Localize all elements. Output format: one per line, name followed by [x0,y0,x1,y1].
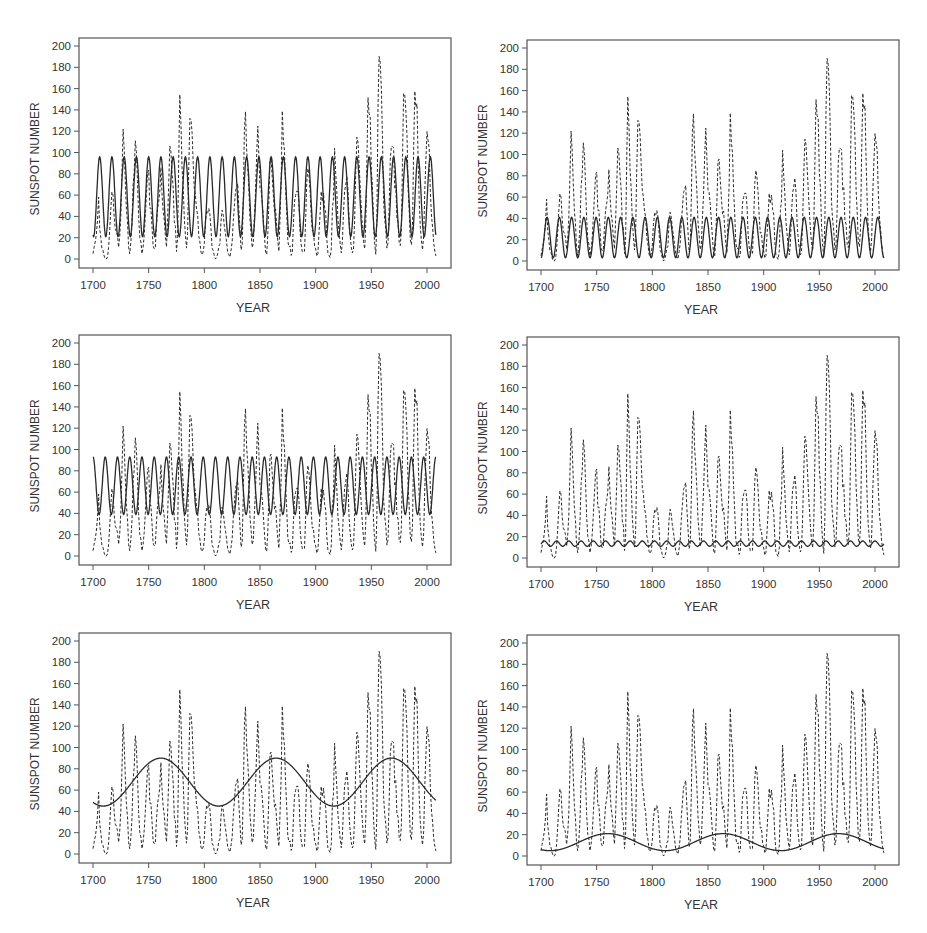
x-axis: 1700175018001850190019502000 [528,270,888,293]
x-axis-label: YEAR [684,898,718,912]
y-axis-label: SUNSPOT NUMBER [476,401,490,514]
x-tick-label: 1700 [528,281,554,293]
x-tick-label: 2000 [862,876,888,888]
x-axis-label: YEAR [684,303,718,317]
y-tick-label: 180 [500,63,519,75]
x-tick-label: 1950 [807,281,833,293]
y-tick-label: 40 [506,807,519,819]
y-tick-label: 140 [52,104,71,116]
y-tick-label: 180 [52,61,71,73]
plot-frame [527,337,899,567]
x-tick-label: 1700 [528,876,554,888]
y-tick-label: 140 [52,699,71,711]
x-axis-label: YEAR [236,896,270,910]
x-tick-label: 1900 [303,874,329,886]
y-tick-label: 40 [58,805,71,817]
y-tick-label: 180 [52,358,71,370]
y-tick-label: 100 [500,149,519,161]
y-tick-label: 80 [58,465,71,477]
y-tick-label: 120 [52,720,71,732]
y-tick-label: 20 [506,234,519,246]
plot-frame [79,633,451,863]
x-tick-label: 1750 [584,281,610,293]
y-axis: 020406080100120140160180200 [500,637,527,862]
observed-series-line [541,58,884,261]
y-tick-label: 180 [500,360,519,372]
figure-canvas: 0204060801001201401601802001700175018001… [0,0,927,933]
x-tick-label: 1850 [247,576,273,588]
y-tick-label: 100 [500,744,519,756]
x-tick-label: 1900 [303,576,329,588]
fitted-sinusoid-line [93,457,436,515]
observed-series-line [541,355,884,558]
y-tick-label: 0 [65,848,71,860]
y-axis-label: SUNSPOT NUMBER [28,102,42,215]
x-tick-label: 1850 [695,876,721,888]
x-tick-label: 1850 [695,578,721,590]
sunspot-figure: 0204060801001201401601802001700175018001… [0,0,927,933]
y-tick-label: 40 [58,210,71,222]
panel-1: 0204060801001201401601802001700175018001… [28,38,451,315]
y-axis-label: SUNSPOT NUMBER [476,104,490,217]
y-tick-label: 40 [506,212,519,224]
y-axis: 020406080100120140160180200 [52,337,79,562]
y-tick-label: 80 [506,170,519,182]
y-tick-label: 160 [52,380,71,392]
x-tick-label: 2000 [862,281,888,293]
panel-2: 0204060801001201401601802001700175018001… [476,40,899,317]
observed-series-line [541,653,884,856]
x-tick-label: 1950 [807,578,833,590]
y-tick-label: 120 [52,422,71,434]
plot-frame [527,40,899,270]
x-tick-label: 1800 [192,279,218,291]
y-tick-label: 0 [65,253,71,265]
y-tick-label: 100 [52,147,71,159]
y-axis: 020406080100120140160180200 [52,635,79,860]
y-axis-label: SUNSPOT NUMBER [28,697,42,810]
x-axis-label: YEAR [236,301,270,315]
panel-4: 0204060801001201401601802001700175018001… [476,337,899,614]
observed-series-line [93,353,436,556]
y-tick-label: 100 [500,446,519,458]
y-tick-label: 0 [513,850,519,862]
fitted-sinusoid-line [93,157,436,237]
y-tick-label: 60 [58,189,71,201]
y-axis: 020406080100120140160180200 [500,42,527,267]
y-tick-label: 120 [500,127,519,139]
x-tick-label: 1700 [80,279,106,291]
y-tick-label: 160 [52,678,71,690]
x-axis-label: YEAR [236,598,270,612]
y-tick-label: 80 [506,467,519,479]
x-tick-label: 1850 [695,281,721,293]
y-tick-label: 160 [52,83,71,95]
panel-5: 0204060801001201401601802001700175018001… [28,633,451,910]
x-tick-label: 1750 [136,279,162,291]
x-axis: 1700175018001850190019502000 [80,268,440,291]
y-tick-label: 0 [65,550,71,562]
y-tick-label: 60 [506,191,519,203]
x-axis: 1700175018001850190019502000 [80,565,440,588]
x-tick-label: 1700 [528,578,554,590]
y-tick-label: 200 [52,337,71,349]
y-tick-label: 20 [58,827,71,839]
y-tick-label: 100 [52,444,71,456]
x-axis: 1700175018001850190019502000 [528,865,888,888]
x-tick-label: 1750 [136,576,162,588]
fitted-sinusoid-line [541,834,884,851]
y-tick-label: 200 [52,40,71,52]
y-tick-label: 120 [500,424,519,436]
x-tick-label: 1850 [247,874,273,886]
y-tick-label: 200 [500,42,519,54]
y-tick-label: 20 [506,531,519,543]
fitted-sinusoid-line [93,758,436,806]
y-tick-label: 120 [500,722,519,734]
y-tick-label: 60 [506,786,519,798]
y-tick-label: 80 [58,763,71,775]
x-tick-label: 1750 [136,874,162,886]
x-tick-label: 1950 [807,876,833,888]
x-tick-label: 1950 [359,874,385,886]
y-axis: 020406080100120140160180200 [500,339,527,564]
y-tick-label: 120 [52,125,71,137]
x-tick-label: 1900 [751,281,777,293]
x-tick-label: 1800 [192,576,218,588]
